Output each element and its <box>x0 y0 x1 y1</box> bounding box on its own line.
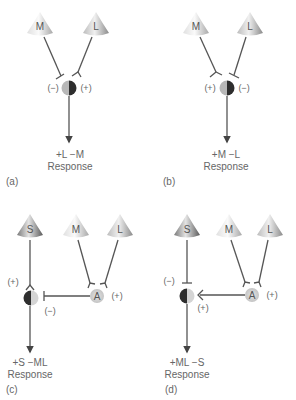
l-to-cell-wire <box>78 37 92 72</box>
m-cone: M <box>27 12 53 36</box>
m-cone: M <box>216 214 242 238</box>
svg-text:(+): (+) <box>197 303 208 313</box>
s-cone: S <box>174 214 200 238</box>
svg-text:M: M <box>225 224 233 235</box>
svg-text:(b): (b) <box>163 176 175 187</box>
opponent-cell <box>180 289 195 304</box>
excitatory-synapse-icon <box>26 285 34 290</box>
m-cone: M <box>63 214 89 238</box>
svg-text:(+): (+) <box>266 290 277 300</box>
svg-text:(−): (−) <box>163 276 174 286</box>
svg-text:M: M <box>72 224 80 235</box>
svg-text:(−): (−) <box>238 83 249 93</box>
l-to-cell-wire <box>234 37 246 75</box>
excitatory-synapse-icon <box>100 283 107 288</box>
m-to-cell-wire <box>200 37 216 72</box>
opponent-cell <box>220 81 235 96</box>
svg-text:Response: Response <box>47 161 92 172</box>
panel-d: S M L (−) A (+) (+) +ML −S Response (d) <box>163 214 283 395</box>
excitatory-synapse-icon <box>254 282 261 287</box>
svg-text:(c): (c) <box>6 384 18 395</box>
svg-text:(+): (+) <box>204 83 215 93</box>
m-to-a-wire <box>78 240 90 283</box>
svg-text:+S −ML: +S −ML <box>12 357 47 368</box>
svg-text:(+): (+) <box>80 83 91 93</box>
svg-text:+ML −S: +ML −S <box>170 357 205 368</box>
l-cone: L <box>83 12 109 36</box>
svg-text:S: S <box>27 224 34 235</box>
svg-text:(−): (−) <box>47 83 58 93</box>
m-cone: M <box>183 12 209 36</box>
svg-text:A: A <box>249 290 256 301</box>
svg-text:A: A <box>94 291 101 302</box>
m-to-a-wire <box>231 240 245 282</box>
svg-text:(a): (a) <box>6 176 18 187</box>
s-cone: S <box>17 214 43 238</box>
svg-text:Response: Response <box>7 369 52 380</box>
m-to-cell-wire <box>44 37 61 76</box>
opponent-cell <box>24 291 39 306</box>
l-to-a-wire <box>105 240 118 283</box>
svg-text:L: L <box>93 21 99 32</box>
cone-opponent-diagram: M L (−) (+) +L −M Response (a) M L <box>0 0 296 400</box>
l-cone: L <box>257 214 283 238</box>
l-to-a-wire <box>259 240 268 282</box>
svg-text:S: S <box>184 224 191 235</box>
svg-text:L: L <box>267 224 273 235</box>
svg-text:(d): (d) <box>165 384 177 395</box>
excitatory-synapse-icon <box>88 283 95 288</box>
svg-text:M: M <box>192 21 200 32</box>
l-cone: L <box>237 12 263 36</box>
svg-text:+M −L: +M −L <box>212 149 241 160</box>
excitatory-synapse-icon <box>72 72 81 77</box>
svg-text:L: L <box>247 21 253 32</box>
svg-text:L: L <box>117 224 123 235</box>
svg-text:(+): (+) <box>7 277 18 287</box>
svg-text:(−): (−) <box>44 306 55 316</box>
svg-text:(+): (+) <box>111 291 122 301</box>
panel-b: M L (+) (−) +M −L Response (b) <box>163 12 263 187</box>
panel-c: S M L (+) A (+) (−) +S −ML Response (c) <box>6 214 133 395</box>
panel-a: M L (−) (+) +L −M Response (a) <box>6 12 109 187</box>
svg-text:Response: Response <box>164 369 209 380</box>
excitatory-synapse-icon <box>210 72 222 77</box>
opponent-cell <box>62 81 77 96</box>
svg-text:M: M <box>36 21 44 32</box>
svg-text:Response: Response <box>203 161 248 172</box>
svg-text:+L −M: +L −M <box>56 149 84 160</box>
excitatory-synapse-icon <box>243 282 250 287</box>
l-cone: L <box>107 214 133 238</box>
